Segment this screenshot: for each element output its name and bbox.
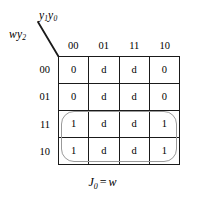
caption-expression: w: [109, 175, 117, 189]
row-variable-sub2: 2: [22, 33, 26, 42]
kmap-caption: J0=w: [0, 176, 205, 188]
caption-function-subscript: 0: [94, 182, 98, 191]
column-header-01: 01: [89, 38, 120, 53]
column-variable-label: y1y0: [39, 10, 57, 22]
kmap-cell: d: [89, 138, 119, 164]
kmap-cell: d: [89, 57, 119, 83]
row-header-10: 10: [22, 138, 54, 165]
kmap-cell: 1: [150, 111, 179, 137]
column-variable-sub2: 0: [53, 14, 57, 23]
column-variable-sub1: 1: [44, 14, 48, 23]
row-variable-label: wy2: [9, 29, 26, 41]
kmap-cell: d: [89, 111, 119, 137]
karnaugh-map-figure: y1y0 wy2 00 01 11 10 00 01 11 10 0 d d 0…: [0, 0, 205, 204]
kmap-cell: 1: [59, 111, 89, 137]
kmap-cell: 0: [150, 57, 179, 83]
row-header-11: 11: [22, 111, 54, 138]
column-header-10: 10: [150, 38, 181, 53]
kmap-row: 0 d d 0: [59, 57, 179, 84]
caption-function-name: J: [88, 175, 93, 189]
kmap-cell: 1: [150, 138, 179, 164]
kmap-cell: 0: [59, 57, 89, 83]
kmap-cell: 0: [150, 84, 179, 110]
column-header-00: 00: [58, 38, 89, 53]
row-header-column: 00 01 11 10: [22, 56, 54, 165]
row-variable-base1: w: [9, 28, 17, 40]
kmap-cell: d: [89, 84, 119, 110]
kmap-cell: d: [120, 111, 150, 137]
kmap-cell: d: [120, 84, 150, 110]
kmap-cell: 1: [59, 138, 89, 164]
kmap-cell: 0: [59, 84, 89, 110]
kmap-cell: d: [120, 138, 150, 164]
kmap-grid: 0 d d 0 0 d d 0 1 d d 1 1 d d 1: [58, 56, 180, 165]
kmap-row: 1 d d 1: [59, 111, 179, 138]
kmap-row: 1 d d 1: [59, 138, 179, 164]
column-header-11: 11: [119, 38, 150, 53]
kmap-cell: d: [120, 57, 150, 83]
kmap-row: 0 d d 0: [59, 84, 179, 111]
column-header-row: 00 01 11 10: [58, 38, 180, 53]
caption-operator: =: [98, 175, 109, 189]
row-header-00: 00: [22, 56, 54, 83]
row-header-01: 01: [22, 83, 54, 110]
